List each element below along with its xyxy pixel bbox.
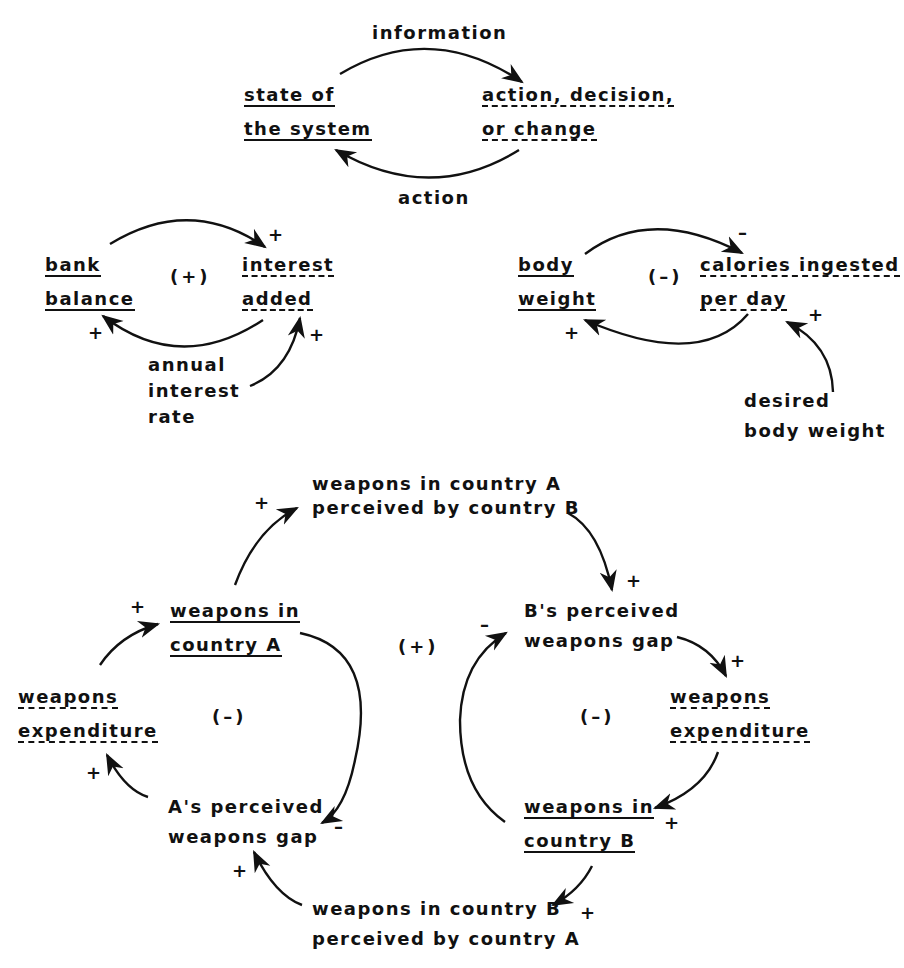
arrow-information (340, 49, 522, 82)
node-interest-added: interest added (242, 250, 334, 314)
loop-polarity-right: (–) (580, 706, 614, 727)
arrow-bexp-to-wb (655, 752, 718, 808)
arrow-desired-to-calories (787, 322, 833, 392)
arrow-agap-to-aexp (107, 755, 148, 797)
node-a-perceived-gap: A's perceived weapons gap (168, 792, 324, 852)
node-body-weight: body weight (518, 250, 596, 314)
sign-a-to-perceived: + (254, 494, 269, 512)
sign-from-rate: + (309, 326, 324, 344)
arrow-calories-to-weight (585, 314, 748, 344)
node-desired-body-weight: desired body weight (744, 386, 886, 446)
arrow-action (336, 150, 519, 178)
arrow-bgap-to-bexp (677, 637, 726, 676)
sign-perceived-to-bgap: + (626, 572, 641, 590)
node-bank-balance: bank balance (45, 250, 135, 314)
loop-polarity-weight: (–) (648, 266, 682, 287)
sign-to-weight: + (564, 324, 579, 342)
sign-agap-to-aexp: + (86, 764, 101, 782)
sign-bgap-to-bexp: + (730, 652, 745, 670)
edge-label-information: information (372, 18, 507, 48)
arrow-aexp-to-wa (100, 624, 158, 665)
sign-aexp-to-wa: + (130, 598, 145, 616)
arrow-wb-to-bgap (460, 633, 506, 822)
sign-wa-to-agap: – (334, 818, 343, 836)
node-action-decision-change: action, decision, or change (482, 80, 674, 144)
sign-wb-to-bgap: – (480, 616, 489, 634)
node-b-perceived-gap: B's perceived weapons gap (524, 596, 680, 656)
node-calories-ingested: calories ingested per day (700, 250, 900, 314)
sign-to-calories: – (738, 224, 747, 242)
sign-from-desired: + (808, 306, 823, 324)
node-weapons-country-a: weapons in country A (170, 596, 300, 660)
node-state-of-system: state of the system (244, 80, 372, 144)
node-b-expenditure: weapons expenditure (670, 682, 810, 746)
node-b-perceived-by-a: weapons in country B perceived by countr… (312, 894, 580, 954)
sign-to-interest: + (268, 226, 283, 244)
arrow-interest-to-balance (103, 316, 263, 347)
node-a-expenditure: weapons expenditure (18, 682, 158, 746)
arrow-perceived-by-b-to-bgap (568, 513, 612, 590)
loop-polarity-center: (+) (398, 636, 439, 657)
arrow-perceived-by-a-to-agap (254, 852, 302, 905)
sign-perceived-to-agap: + (232, 862, 247, 880)
sign-to-balance: + (88, 324, 103, 342)
sign-bexp-to-wb: + (664, 814, 679, 832)
arrow-wa-to-perceived-by-b (235, 508, 297, 585)
loop-polarity-left: (–) (212, 706, 246, 727)
sign-wb-to-perceived: + (580, 904, 595, 922)
loop-polarity-bank: (+) (170, 266, 211, 287)
node-a-perceived-by-b: weapons in country A perceived by countr… (312, 472, 580, 520)
arrow-rate-to-interest (250, 318, 300, 386)
node-annual-interest-rate: annual interest rate (148, 352, 240, 430)
arrow-balance-to-interest (110, 220, 265, 247)
node-weapons-country-b: weapons in country B (524, 792, 654, 856)
edge-label-action: action (398, 183, 470, 213)
